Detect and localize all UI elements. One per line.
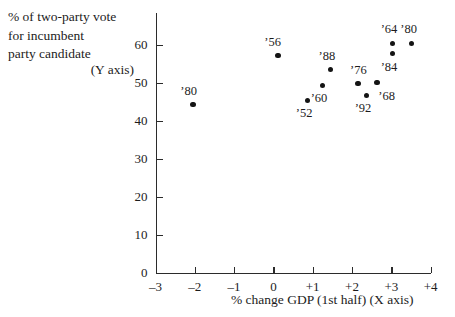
y-axis-tick (157, 83, 163, 84)
y-axis-tick (157, 121, 163, 122)
y-axis-tick-label: 10 (118, 227, 148, 243)
x-axis-tick-label: +1 (298, 279, 328, 295)
x-axis-tick-label: –1 (219, 279, 249, 295)
x-axis-tick-label: –3 (141, 279, 171, 295)
x-axis-tick-label: +2 (337, 279, 367, 295)
y-axis-tick (157, 197, 163, 198)
data-point (374, 80, 380, 86)
x-axis-tick (352, 267, 353, 273)
x-axis-tick (234, 267, 235, 273)
data-point-label: ’88 (319, 49, 336, 64)
y-axis-tick-label: 20 (118, 189, 148, 205)
x-axis-tick-label: +4 (416, 279, 446, 295)
y-axis-tick-label: 30 (118, 151, 148, 167)
x-axis-tick (313, 267, 314, 273)
x-axis-tick-label: –2 (180, 279, 210, 295)
data-point-label: ’76 (350, 63, 367, 78)
data-point (305, 98, 311, 104)
x-axis-tick-label: +3 (376, 279, 406, 295)
x-axis-tick (431, 267, 432, 273)
x-axis-tick-label: 0 (258, 279, 288, 295)
y-axis-tick (157, 235, 163, 236)
data-point (320, 83, 326, 89)
data-point-label: ’84 (381, 60, 398, 75)
x-axis-line (156, 273, 431, 274)
data-point-label: ’92 (355, 101, 372, 116)
x-axis-tick (273, 267, 274, 273)
data-point (190, 102, 196, 108)
data-point (409, 41, 415, 47)
data-point-label: ’68 (378, 89, 395, 104)
scatter-chart: % of two-party vote for incumbent party … (0, 0, 455, 317)
y-axis-label: % of two-party vote for incumbent party … (8, 8, 134, 64)
data-point-label: ’52 (296, 106, 313, 121)
y-axis-tick-label: 50 (118, 75, 148, 91)
data-point-label: ’56 (264, 35, 281, 50)
x-axis-tick (195, 267, 196, 273)
data-point-label: ’80 (180, 84, 197, 99)
y-axis-line (156, 13, 157, 273)
y-axis-tick (157, 45, 163, 46)
data-point (355, 81, 361, 87)
y-axis-tick-label: 60 (118, 37, 148, 53)
x-axis-tick (391, 267, 392, 273)
data-point-label: ’64 (381, 22, 398, 37)
data-point (390, 41, 396, 47)
y-axis-tick (157, 159, 163, 160)
data-point-label: ’60 (311, 91, 328, 106)
data-point (390, 51, 396, 57)
data-point (328, 67, 334, 73)
data-point (364, 93, 370, 99)
y-axis-tick-label: 40 (118, 113, 148, 129)
data-point-label: ’80 (400, 22, 417, 37)
data-point (275, 53, 281, 59)
y-axis-note: (Y axis) (8, 62, 134, 78)
